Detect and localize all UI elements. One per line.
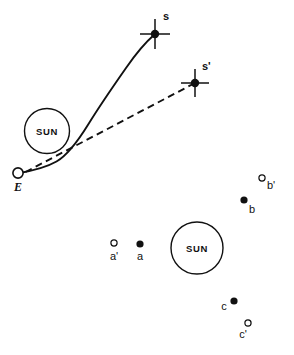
star-a-apparent-label: a' <box>110 250 118 262</box>
observer-marker <box>13 168 23 178</box>
true-star-label: s <box>163 10 169 22</box>
diagram-canvas: SUN SUN E s s' a a' b b' <box>0 0 294 355</box>
star-b-true-label: b <box>249 203 255 215</box>
star-c-true-label: c <box>221 300 227 312</box>
star-a-apparent-marker <box>111 240 117 246</box>
observer-label: E <box>13 180 22 194</box>
light-deflection-diagram: SUN SUN E s s' a a' b b' <box>0 0 294 355</box>
sun-upper-label: SUN <box>36 126 58 137</box>
apparent-star-label: s' <box>202 60 211 72</box>
star-b-apparent-label: b' <box>267 179 275 191</box>
apparent-star-marker <box>181 69 209 97</box>
star-c-apparent-label: c' <box>239 328 247 340</box>
star-b-apparent-marker <box>259 175 265 181</box>
star-a-true-label: a <box>137 250 144 262</box>
star-b-true-marker <box>240 196 247 203</box>
star-c-apparent-marker <box>245 320 251 326</box>
star-c-true-marker <box>230 297 237 304</box>
star-a-true-marker <box>136 240 143 247</box>
sun-lower-label: SUN <box>186 243 208 254</box>
